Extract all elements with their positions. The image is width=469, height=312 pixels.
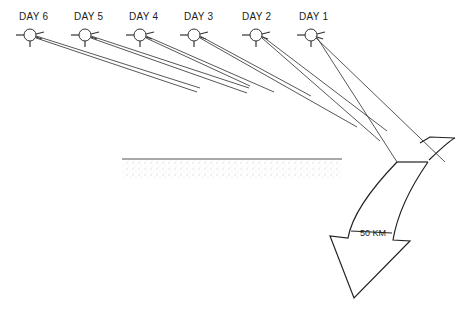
sun-icon	[71, 29, 99, 47]
sun-icon	[16, 29, 44, 47]
sun-icon	[242, 29, 270, 47]
ground-strip	[122, 158, 342, 178]
diagram-canvas: DAY 6 DAY 5 DAY 4 DAY 3 DAY 2 DAY 1	[0, 0, 469, 312]
sun-icon	[297, 29, 325, 47]
scale-label: 50 KM	[360, 228, 386, 238]
flow-arrow	[330, 137, 455, 298]
sightlines	[36, 36, 445, 162]
diagram-drawing	[0, 0, 469, 312]
